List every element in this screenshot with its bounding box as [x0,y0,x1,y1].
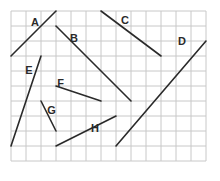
grid [11,11,206,161]
segment-label-h: H [91,122,99,134]
line-segment-grid-diagram: ABCDEFGH [0,0,220,181]
segment-label-b: B [70,32,78,44]
segment-label-a: A [31,16,39,28]
segment-label-e: E [25,64,32,76]
segment-label-c: C [121,14,129,26]
segments: ABCDEFGH [11,11,206,146]
segment-label-g: G [47,104,56,116]
segment-label-f: F [57,77,64,89]
segment-label-d: D [178,35,186,47]
